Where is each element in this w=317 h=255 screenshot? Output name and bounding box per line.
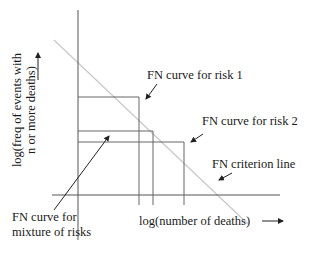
y-axis-label-line-1: log(freq of events with — [10, 30, 24, 190]
risk-2-label: FN curve for risk 2 — [202, 114, 298, 129]
fn-curve-risk-1 — [78, 97, 139, 205]
risk-1-label: FN curve for risk 1 — [147, 68, 243, 83]
y-axis-label-line-2: n or more deaths) — [24, 30, 38, 190]
mixture-arrow-icon — [54, 136, 109, 210]
fn-diagram: FN curve for risk 1 FN curve for risk 2 … — [0, 0, 317, 255]
y-axis-label: log(freq of events with n or more deaths… — [10, 30, 38, 190]
x-axis-label: log(number of deaths) — [139, 214, 250, 229]
risk-2-arrow-icon — [191, 134, 203, 142]
criterion-label: FN criterion line — [212, 157, 295, 172]
criterion-arrow-icon — [219, 173, 232, 180]
fn-curve-risk-2 — [78, 142, 184, 205]
mixture-label-line-1: FN curve for — [12, 210, 77, 225]
mixture-label-line-2: mixture of risks — [12, 225, 91, 240]
risk-1-arrow-icon — [146, 84, 157, 99]
